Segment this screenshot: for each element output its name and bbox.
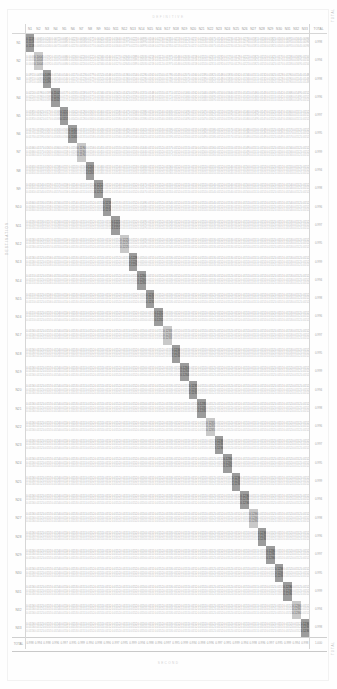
matrix-cell: 0.01460.01460.0146 (137, 162, 146, 180)
matrix-column-total: 0.998 (94, 637, 103, 649)
matrix-cell: 0.01500.01500.0150 (137, 418, 146, 436)
matrix-cell: 0.01510.01510.0151 (275, 253, 284, 271)
matrix-cell: 0.01520.01520.0152 (232, 509, 241, 527)
matrix-cell: 0.01510.01510.0151 (94, 308, 103, 326)
matrix-row-total: 0.997 (310, 107, 328, 125)
matrix-row-label: N17 (12, 326, 26, 344)
matrix-cell: 0.01680.01680.0168 (51, 107, 60, 125)
matrix-cell: 0.01520.01520.0152 (189, 619, 198, 637)
matrix-cell: 0.11020.11020.1102 (51, 88, 60, 106)
matrix-cell: 0.01510.01510.0151 (77, 473, 86, 491)
matrix-row-label: N12 (12, 235, 26, 253)
matrix-cell: 0.01520.01520.0152 (206, 491, 215, 509)
matrix-cell: 0.01710.01710.0171 (86, 88, 95, 106)
matrix-cell: 0.01570.01570.0157 (34, 143, 43, 161)
matrix-row: N30.09130.09130.09130.04830.04830.04830.… (12, 70, 327, 88)
matrix-cell: 0.01560.01560.0156 (283, 143, 292, 161)
matrix-cell: 0.01520.01520.0152 (111, 509, 120, 527)
matrix-cell: 0.01500.01500.0150 (137, 363, 146, 381)
matrix-cell: 0.11180.11180.1118 (26, 34, 35, 52)
matrix-cell: 0.01520.01520.0152 (172, 528, 181, 546)
matrix-cell: 0.01280.01280.0128 (275, 70, 284, 88)
matrix-cell: 0.03110.03110.0311 (103, 34, 112, 52)
matrix-cell: 0.01510.01510.0151 (258, 436, 267, 454)
matrix-column-header: N1 (26, 24, 35, 34)
matrix-cell: 0.01510.01510.0151 (94, 601, 103, 619)
matrix-cell: 0.01530.01530.0153 (163, 271, 172, 289)
matrix-cell: 0.01520.01520.0152 (223, 326, 232, 344)
matrix-cell: 0.01510.01510.0151 (240, 454, 249, 472)
matrix-cell: 0.01520.01520.0152 (292, 363, 301, 381)
matrix-cell: 0.01520.01520.0152 (292, 399, 301, 417)
matrix-cell: 0.01530.01530.0153 (189, 180, 198, 198)
matrix-cell: 0.01520.01520.0152 (301, 528, 310, 546)
matrix-cell: 0.01530.01530.0153 (34, 216, 43, 234)
matrix-cell: 0.01580.01580.0158 (26, 253, 35, 271)
matrix-cell: 0.01520.01520.0152 (232, 235, 241, 253)
matrix-cell: 0.01530.01530.0153 (68, 582, 77, 600)
matrix-cell: 0.01490.01490.0149 (120, 125, 129, 143)
total-column-label-bottom: TOTAL (331, 641, 335, 655)
matrix-cell: 0.01570.01570.0157 (283, 125, 292, 143)
matrix-column-total: 0.997 (60, 637, 69, 649)
matrix-cell: 0.01510.01510.0151 (180, 436, 189, 454)
matrix-cell: 0.01530.01530.0153 (68, 601, 77, 619)
matrix-cell: 0.01300.01300.0130 (68, 52, 77, 70)
matrix-cell: 0.01510.01510.0151 (146, 143, 155, 161)
matrix-cell: 0.01510.01510.0151 (249, 143, 258, 161)
matrix-cell: 0.01510.01510.0151 (197, 180, 206, 198)
matrix-row-total: 0.995 (310, 454, 328, 472)
matrix-cell: 0.01340.01340.0134 (94, 88, 103, 106)
matrix-cell: 0.00810.00810.0081 (60, 34, 69, 52)
matrix-cell: 0.01820.01820.0182 (206, 70, 215, 88)
matrix-cell: 0.01510.01510.0151 (258, 619, 267, 637)
matrix-cell: 0.01630.01630.0163 (51, 125, 60, 143)
matrix-row: N90.01610.01610.01610.01540.01540.01540.… (12, 180, 327, 198)
matrix-cell: 0.01560.01560.0156 (129, 107, 138, 125)
matrix-cell: 0.01520.01520.0152 (103, 363, 112, 381)
matrix-row: N80.01630.01630.01630.01550.01550.01550.… (12, 162, 327, 180)
matrix-cell: 0.01580.01580.0158 (206, 125, 215, 143)
matrix-cell: 0.01570.01570.0157 (163, 143, 172, 161)
matrix-row: N150.01570.01570.01570.01520.01520.01520… (12, 290, 327, 308)
matrix-cell: 0.01530.01530.0153 (163, 619, 172, 637)
matrix-cell: 0.01530.01530.0153 (163, 345, 172, 363)
matrix-cell: 0.01970.01970.0197 (163, 52, 172, 70)
matrix-cell: 0.01510.01510.0151 (249, 601, 258, 619)
matrix-cell: 0.01520.01520.0152 (292, 143, 301, 161)
matrix-cell: 0.01510.01510.0151 (120, 271, 129, 289)
matrix-cell: 0.01510.01510.0151 (249, 253, 258, 271)
matrix-cell: 0.01560.01560.0156 (43, 253, 52, 271)
matrix-cell: 0.01590.01590.0159 (43, 180, 52, 198)
matrix-cell: 0.01550.01550.0155 (43, 601, 52, 619)
matrix-cell: 0.01510.01510.0151 (275, 162, 284, 180)
matrix-cell: 0.01520.01520.0152 (292, 345, 301, 363)
matrix-cell: 0.01520.01520.0152 (292, 528, 301, 546)
matrix-cell: 0.01560.01560.0156 (26, 345, 35, 363)
matrix-cell: 0.01520.01520.0152 (172, 326, 181, 344)
matrix-cell: 0.01520.01520.0152 (129, 381, 138, 399)
matrix-cell: 0.01510.01510.0151 (146, 454, 155, 472)
matrix-cell: 0.01510.01510.0151 (249, 528, 258, 546)
matrix-cell: 0.01520.01520.0152 (172, 399, 181, 417)
matrix-cell: 0.01530.01530.0153 (103, 162, 112, 180)
matrix-cell: 0.12120.12120.1212 (94, 180, 103, 198)
matrix-cell: 0.01600.01600.0160 (60, 125, 69, 143)
matrix-cell: 0.01540.01540.0154 (163, 216, 172, 234)
matrix-row-total: 0.995 (310, 235, 328, 253)
matrix-cell: 0.01520.01520.0152 (34, 345, 43, 363)
matrix-row: N320.01560.01560.01560.01520.01520.01520… (12, 601, 327, 619)
matrix-cell: 0.01510.01510.0151 (197, 509, 206, 527)
matrix-column-header: N23 (215, 24, 224, 34)
matrix-cell: 0.01540.01540.0154 (206, 180, 215, 198)
matrix-cell: 0.01530.01530.0153 (163, 601, 172, 619)
matrix-cell: 0.01560.01560.0156 (206, 143, 215, 161)
matrix-cell: 0.01520.01520.0152 (103, 619, 112, 637)
matrix-cell: 0.01550.01550.0155 (111, 70, 120, 88)
matrix-cell: 0.01540.01540.0154 (283, 180, 292, 198)
matrix-cell: 0.01120.01120.0112 (180, 34, 189, 52)
matrix-cell: 0.01510.01510.0151 (197, 564, 206, 582)
matrix-column-total: 0.998 (26, 637, 35, 649)
matrix-cell: 0.02130.02130.0213 (172, 34, 181, 52)
matrix-cell: 0.01700.01700.0170 (223, 52, 232, 70)
